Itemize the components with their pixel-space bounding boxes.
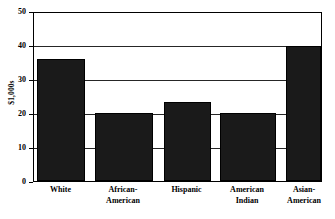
y-tick-label: 50 <box>8 8 26 16</box>
bar-hispanic <box>164 102 211 181</box>
y-tick-label: 0 <box>8 178 26 186</box>
y-tick-mark <box>29 182 33 183</box>
x-label-line1: Asian- <box>293 185 315 194</box>
bar-chart: $1,000s 50 40 30 20 10 0 White <box>0 0 335 219</box>
x-label-american-indian: American Indian <box>215 185 279 206</box>
x-label-hispanic: Hispanic <box>155 185 218 196</box>
x-label-line1: Hispanic <box>171 185 201 194</box>
y-axis-tick-labels: 50 40 30 20 10 0 <box>7 0 26 219</box>
plot-area <box>33 12 322 182</box>
x-label-line2: American <box>91 196 155 207</box>
y-tick-label: 30 <box>8 76 26 84</box>
x-label-african-american: African- American <box>91 185 155 206</box>
y-tick-label: 20 <box>8 110 26 118</box>
x-axis-labels: White African- American Hispanic America… <box>33 185 322 217</box>
bar-white <box>37 59 85 181</box>
x-label-line1: American <box>230 185 264 194</box>
x-label-white: White <box>28 185 93 196</box>
x-label-line2: Indian <box>215 196 279 207</box>
x-label-line1: White <box>50 185 71 194</box>
y-tick-label: 10 <box>8 144 26 152</box>
bar-asian-american <box>286 46 321 181</box>
y-tick-label: 40 <box>8 42 26 50</box>
bar-african-american <box>95 113 153 181</box>
x-label-line1: African- <box>109 185 138 194</box>
bars-layer <box>34 13 321 181</box>
x-label-asian-american: Asian- American <box>273 185 335 206</box>
x-label-line2: American <box>273 196 335 207</box>
bar-american-indian <box>220 113 276 181</box>
